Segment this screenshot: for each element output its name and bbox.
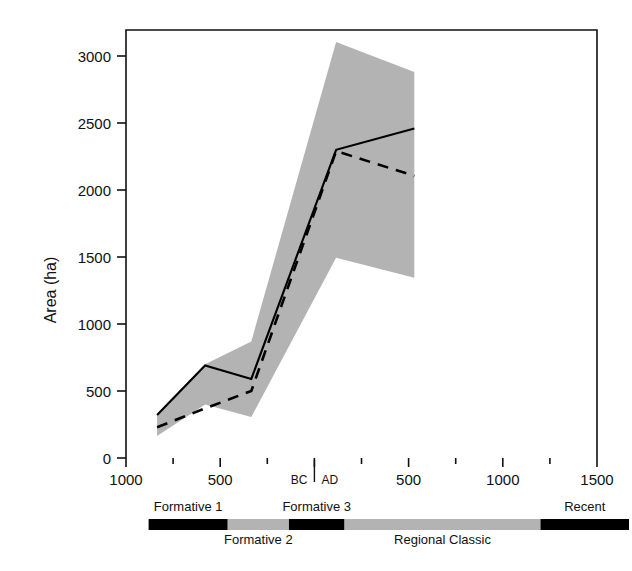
- period-label: Formative 2: [224, 532, 293, 547]
- period-label: Formative 3: [282, 499, 351, 514]
- figure-container: 050010001500200025003000 1000500BCAD5001…: [0, 0, 632, 571]
- x-tick-label: 1000: [486, 471, 519, 488]
- period-label: Recent: [564, 499, 606, 514]
- period-segment: [228, 519, 289, 530]
- area-through-time-chart: 050010001500200025003000 1000500BCAD5001…: [0, 0, 632, 571]
- y-tick-label: 2000: [78, 182, 111, 199]
- period-segment: [149, 519, 228, 530]
- period-segment: [540, 519, 629, 530]
- x-tick-label: 1500: [580, 471, 613, 488]
- period-label: Regional Classic: [394, 532, 491, 547]
- period-segment: [345, 519, 541, 530]
- x-tick-label-bc: BC: [291, 473, 308, 487]
- x-tick-label-ad: AD: [321, 473, 338, 487]
- x-tick-label: 500: [208, 471, 233, 488]
- x-tick-label: 1000: [109, 471, 142, 488]
- period-segment: [289, 519, 345, 530]
- x-tick-label: 500: [396, 471, 421, 488]
- period-timeline-bar: [149, 519, 629, 530]
- y-tick-label: 1500: [78, 249, 111, 266]
- y-tick-label: 1000: [78, 316, 111, 333]
- y-tick-label: 0: [103, 450, 111, 467]
- period-label: Formative 1: [154, 499, 223, 514]
- y-tick-label: 3000: [78, 48, 111, 65]
- y-tick-label: 500: [86, 383, 111, 400]
- y-tick-label: 2500: [78, 115, 111, 132]
- y-axis-title: Area (ha): [42, 257, 59, 324]
